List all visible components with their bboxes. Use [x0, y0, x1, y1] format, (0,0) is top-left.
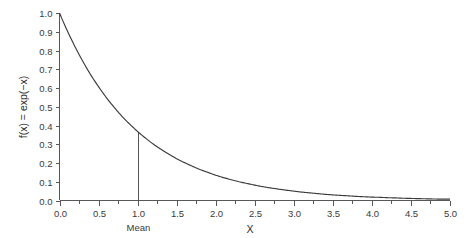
x-tick-label: 3.0 [288, 208, 301, 219]
y-tick-label: 1.0 [39, 8, 52, 19]
chart-container: 1.00.90.80.70.60.50.40.30.20.10.0 f(x) =… [0, 0, 466, 238]
y-axis-tick-labels: 1.00.90.80.70.60.50.40.30.20.10.0 [39, 8, 52, 207]
x-tick-label: 0.5 [93, 208, 106, 219]
y-tick-label: 0.4 [39, 121, 52, 132]
y-tick-label: 0.8 [39, 46, 52, 57]
y-tick-label: 0.6 [39, 83, 52, 94]
x-tick-label: 1.5 [171, 208, 184, 219]
mean-label: Mean [127, 222, 151, 233]
y-axis-title: f(x) = exp(−x) [17, 76, 29, 138]
exponential-decay-chart: 1.00.90.80.70.60.50.40.30.20.10.0 f(x) =… [0, 0, 466, 238]
x-tick-label: 0.0 [54, 208, 67, 219]
y-tick-label: 0.5 [39, 102, 52, 113]
x-tick-label: 4.5 [405, 208, 418, 219]
y-tick-label: 0.7 [39, 64, 52, 75]
y-tick-label: 0.2 [39, 158, 52, 169]
x-tick-label: 2.5 [249, 208, 262, 219]
x-axis-title: X [246, 223, 253, 235]
y-tick-label: 0.9 [39, 27, 52, 38]
y-tick-label: 0.1 [39, 177, 52, 188]
x-tick-label: 4.0 [366, 208, 379, 219]
x-tick-label: 1.0 [132, 208, 145, 219]
x-tick-label: 5.0 [444, 208, 457, 219]
y-tick-label: 0.0 [39, 196, 52, 207]
y-tick-label: 0.3 [39, 139, 52, 150]
x-tick-label: 2.0 [210, 208, 223, 219]
x-tick-label: 3.5 [327, 208, 340, 219]
